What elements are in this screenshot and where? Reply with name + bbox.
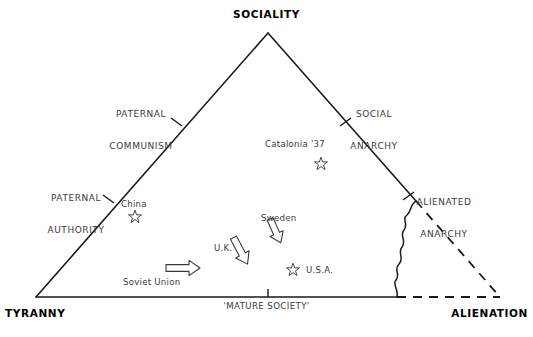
zone-label-paternal-authority-line1: PATERNAL <box>30 193 122 204</box>
zone-label-alienated-anarchy-line1: ALIENATED <box>398 197 490 208</box>
point-label-usa: U.S.A. <box>306 265 333 275</box>
zone-label-paternal-authority: PATERNAL AUTHORITY <box>30 172 122 257</box>
zone-label-alienated-anarchy: ALIENATED ANARCHY <box>398 176 490 261</box>
arrow-label-sweden: Sweden <box>261 213 296 223</box>
star-china <box>129 210 142 222</box>
star-catalonia-37 <box>315 157 328 169</box>
zone-label-social-anarchy-line2: ANARCHY <box>330 141 418 152</box>
zone-label-social-anarchy-line1: SOCIAL <box>330 109 418 120</box>
zone-label-social-anarchy: SOCIAL ANARCHY <box>330 88 418 173</box>
soviet-union-arrow-icon <box>166 260 200 275</box>
arrow-label-soviet-union: Soviet Union <box>123 277 180 287</box>
zone-label-paternal-communism: PATERNAL COMMUNISM <box>95 88 187 173</box>
zone-label-paternal-authority-line2: AUTHORITY <box>30 225 122 236</box>
vertex-label-sociality: SOCIALITY <box>0 8 533 20</box>
star-usa <box>287 263 300 275</box>
triangle-svg <box>0 0 533 337</box>
arrow-label-uk: U.K. <box>214 243 232 253</box>
zone-label-alienated-anarchy-line2: ANARCHY <box>398 229 490 240</box>
point-label-catalonia-37: Catalonia '37 <box>265 139 325 149</box>
zone-label-paternal-communism-line2: COMMUNISM <box>95 141 187 152</box>
point-label-china: China <box>121 199 147 209</box>
zone-label-paternal-communism-line1: PATERNAL <box>95 109 187 120</box>
diagram-canvas: SOCIALITY TYRANNY ALIENATION PATERNAL CO… <box>0 0 533 337</box>
axis-label-mature-society: 'MATURE SOCIETY' <box>0 301 533 311</box>
